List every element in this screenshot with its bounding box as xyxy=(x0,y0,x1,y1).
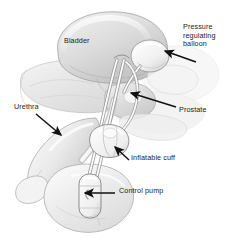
label-control-pump: Control pump xyxy=(119,187,163,196)
label-inflatable-cuff: Inflatable cuff xyxy=(131,154,175,163)
balloon-body xyxy=(131,40,169,72)
cuff-pillow xyxy=(103,128,117,138)
urethra-arrow xyxy=(36,114,61,135)
label-urethra: Urethra xyxy=(14,103,39,112)
label-pressure-regulating-balloon: Pressureregulatingballoon xyxy=(183,23,216,49)
label-bladder: Bladder xyxy=(64,37,89,46)
label-balloon-line3: balloon xyxy=(183,39,207,48)
label-prostate: Prostate xyxy=(179,106,207,115)
pressure-regulating-balloon xyxy=(131,40,169,72)
prostate-lobe-highlight xyxy=(124,91,142,104)
glans-penis xyxy=(16,176,48,204)
control-pump xyxy=(79,174,101,218)
inflatable-cuff xyxy=(90,125,129,158)
medical-illustration-figure: Bladder Pressureregulatingballoon Urethr… xyxy=(0,0,238,241)
